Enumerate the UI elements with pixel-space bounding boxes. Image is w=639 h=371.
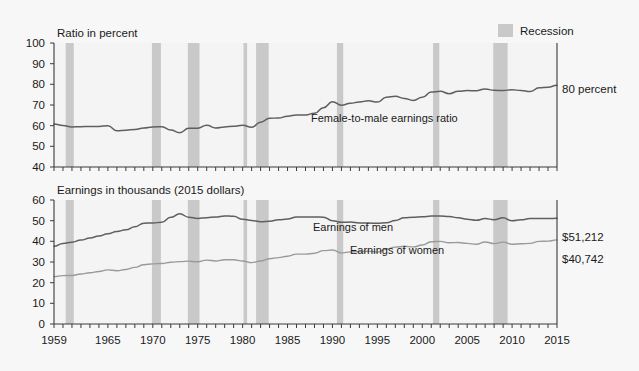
y-tick-label: 60 (32, 120, 45, 132)
earnings-men-end-label: $51,212 (562, 231, 604, 243)
y-tick-label: 70 (32, 99, 45, 111)
x-tick-label: 1995 (365, 334, 391, 346)
recession-band (433, 43, 439, 167)
earnings-men-annotation: Earnings of men (313, 221, 393, 233)
recession-swatch-icon (498, 24, 513, 37)
x-tick-label: 1980 (230, 334, 256, 346)
ratio-panel: Ratio in percent 405060708090100 Female-… (26, 27, 617, 173)
y-tick-label: 20 (32, 277, 45, 289)
y-tick-label: 50 (32, 140, 45, 152)
y-tick-label: 10 (32, 297, 45, 309)
recession-band (337, 200, 343, 324)
recession-legend-label: Recession (520, 25, 574, 37)
x-tick-label: 2010 (499, 334, 525, 346)
x-tick-label: 1965 (95, 334, 121, 346)
y-tick-label: 90 (32, 58, 45, 70)
x-tick-label: 1959 (41, 334, 67, 346)
chart-canvas: Ratio in percent 405060708090100 Female-… (0, 0, 639, 371)
recession-band (66, 43, 74, 167)
x-tick-label: 2000 (409, 334, 435, 346)
earnings-women-annotation: Earnings of women (350, 244, 444, 256)
x-tick-label: 2015 (544, 334, 570, 346)
y-tick-label: 50 (32, 215, 45, 227)
y-tick-label: 60 (32, 194, 45, 206)
recession-band (152, 200, 161, 324)
y-tick-label: 40 (32, 161, 45, 173)
recession-legend: Recession (498, 24, 574, 37)
y-tick-label: 80 (32, 78, 45, 90)
y-tick-label: 100 (26, 37, 45, 49)
x-tick-label: 2005 (454, 334, 480, 346)
recession-band (256, 200, 269, 324)
recession-band (66, 200, 74, 324)
recession-band (244, 43, 248, 167)
x-tick-label: 1975 (185, 334, 211, 346)
recession-band (433, 200, 439, 324)
recession-band (493, 43, 507, 167)
y-tick-label: 30 (32, 256, 45, 268)
x-tick-label: 1985 (275, 334, 301, 346)
y-tick-label: 40 (32, 235, 45, 247)
chart-figure: Ratio in percent 405060708090100 Female-… (0, 0, 639, 371)
ratio-series-annotation: Female-to-male earnings ratio (311, 112, 458, 124)
earnings-axis-title: Earnings in thousands (2015 dollars) (57, 184, 244, 196)
earnings-women-end-label: $40,742 (562, 253, 604, 265)
earnings-panel: Earnings in thousands (2015 dollars) 010… (32, 184, 603, 346)
x-tick-label: 1970 (140, 334, 166, 346)
x-tick-label: 1990 (320, 334, 346, 346)
ratio-axis-title: Ratio in percent (57, 27, 138, 39)
y-tick-label: 0 (39, 318, 45, 330)
recession-band (152, 43, 161, 167)
recession-band (188, 43, 200, 167)
recession-band (256, 43, 269, 167)
ratio-end-value-label: 80 percent (562, 83, 617, 95)
ratio-plot-background (54, 43, 557, 167)
